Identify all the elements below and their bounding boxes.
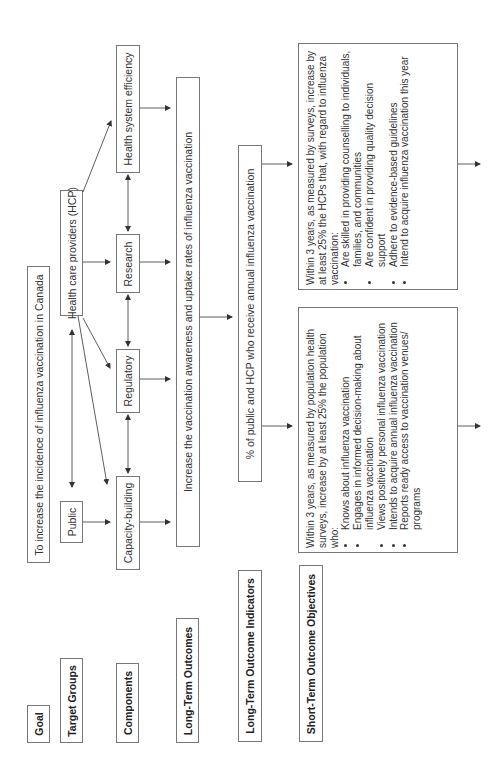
list-item: Intends to acquire annual influenza vacc… xyxy=(388,313,400,534)
target-public-box: Public xyxy=(60,501,83,543)
row-label-long-term-indicators-text: Long-Term Outcome Indicators xyxy=(244,578,256,734)
target-hcp-box: Health care providers (HCP) xyxy=(60,190,83,316)
component-regulatory-box: Regulatory xyxy=(116,349,140,413)
component-research-box: Research xyxy=(116,234,140,293)
row-label-target-groups: Target Groups xyxy=(60,658,83,743)
row-label-target-groups-text: Target Groups xyxy=(66,665,78,737)
long-term-indicator-box: % of public and HCP who receive annual i… xyxy=(238,145,262,482)
component-capacity-building-box: Capacity-building xyxy=(116,476,140,570)
short-term-hcp-content: Within 3 years, as measured by surveys, … xyxy=(305,50,411,285)
arrow-hcp-regulatory xyxy=(83,318,110,368)
row-label-short-term-objectives: Short-Term Outcome Objectives xyxy=(299,565,323,742)
list-item: Reports ready access to vaccination venu… xyxy=(399,313,423,534)
component-regulatory-text: Regulatory xyxy=(122,356,134,407)
short-term-public-list: Knows about influenza vaccination Engage… xyxy=(340,313,423,548)
list-item: Knows about influenza vaccination xyxy=(340,313,352,534)
row-label-long-term-indicators: Long-Term Outcome Indicators xyxy=(238,570,262,742)
list-item: Are confident in providing quality decis… xyxy=(364,50,388,271)
component-research-text: Research xyxy=(122,241,134,286)
short-term-hcp-list: Are skilled in providing counselling to … xyxy=(340,50,411,285)
short-term-public-intro: Within 3 years, as measured by populatio… xyxy=(305,313,340,548)
list-item: Adhere to evidence-based guidelines xyxy=(388,50,400,271)
row-label-goal: Goal xyxy=(27,705,50,743)
short-term-public-box: Within 3 years, as measured by populatio… xyxy=(298,307,458,553)
short-term-public-content: Within 3 years, as measured by populatio… xyxy=(305,313,423,548)
goal-text: To increase the incidence of influenza v… xyxy=(33,274,45,555)
target-public-text: Public xyxy=(66,508,78,537)
component-health-system-efficiency-box: Health system efficiency xyxy=(116,45,140,173)
row-label-short-term-objectives-text: Short-Term Outcome Objectives xyxy=(305,573,317,733)
goal-box: To increase the incidence of influenza v… xyxy=(27,266,50,563)
component-capacity-building-text: Capacity-building xyxy=(122,483,134,564)
long-term-indicator-text: % of public and HCP who receive annual i… xyxy=(244,168,256,458)
short-term-hcp-box: Within 3 years, as measured by surveys, … xyxy=(298,43,458,290)
target-hcp-text: Health care providers (HCP) xyxy=(66,187,78,319)
long-term-outcome-box: Increase the vaccination awareness and u… xyxy=(176,77,200,547)
arrow-hcp-capacity xyxy=(78,316,107,484)
row-label-components-text: Components xyxy=(122,671,134,735)
list-item: Are skilled in providing counselling to … xyxy=(340,50,364,271)
list-item: Engages in informed decision-making abou… xyxy=(352,313,376,534)
row-label-long-term-outcomes-text: Long-Term Outcomes xyxy=(182,626,194,734)
component-health-system-efficiency-text: Health system efficiency xyxy=(122,52,134,165)
short-term-hcp-intro: Within 3 years, as measured by surveys, … xyxy=(305,50,340,285)
row-label-components: Components xyxy=(116,663,139,743)
long-term-outcome-text: Increase the vaccination awareness and u… xyxy=(182,132,194,492)
row-label-long-term-outcomes: Long-Term Outcomes xyxy=(176,618,199,743)
list-item: Views positively personal influenza vacc… xyxy=(376,313,388,534)
row-label-goal-text: Goal xyxy=(33,712,45,735)
arrow-hcp-health-system xyxy=(83,121,111,192)
list-item: Intend to acquire influenza vaccination … xyxy=(399,50,411,271)
